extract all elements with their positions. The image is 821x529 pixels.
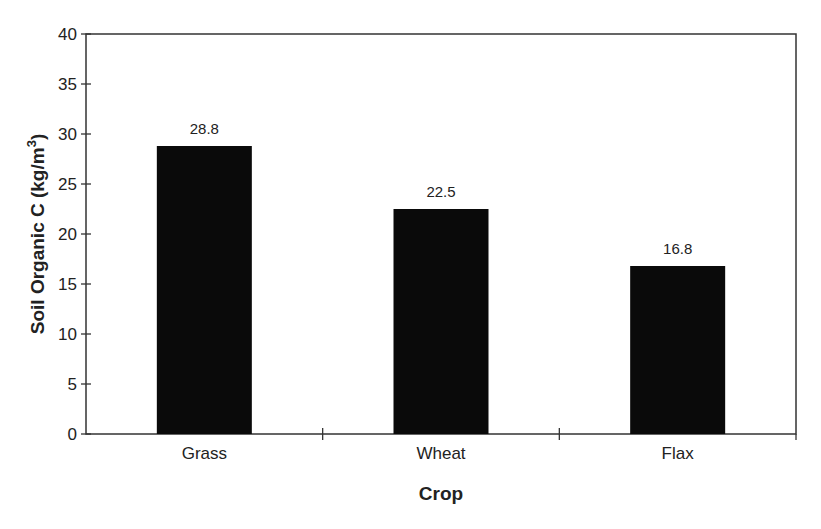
bar-value-label: 22.5 bbox=[426, 183, 455, 200]
bars: 28.822.516.8 bbox=[157, 120, 725, 434]
bar-value-label: 16.8 bbox=[663, 240, 692, 257]
x-category-label: Wheat bbox=[416, 444, 465, 463]
bar-chart: 0510152025303540 GrassWheatFlax 28.822.5… bbox=[0, 0, 821, 529]
y-axis-title: Soil Organic C (kg/m3) bbox=[24, 134, 48, 334]
y-tick-label: 40 bbox=[58, 25, 77, 44]
y-tick-label: 25 bbox=[58, 175, 77, 194]
x-category-label: Flax bbox=[662, 444, 695, 463]
bar-flax bbox=[630, 266, 725, 434]
y-tick-label: 20 bbox=[58, 225, 77, 244]
y-tick-label: 30 bbox=[58, 125, 77, 144]
bar-grass bbox=[157, 146, 252, 434]
y-tick-label: 35 bbox=[58, 75, 77, 94]
y-tick-label: 5 bbox=[68, 375, 77, 394]
y-tick-label: 0 bbox=[68, 425, 77, 444]
x-category-label: Grass bbox=[182, 444, 227, 463]
x-axis-title: Crop bbox=[419, 483, 463, 504]
bar-value-label: 28.8 bbox=[190, 120, 219, 137]
bar-wheat bbox=[394, 209, 489, 434]
y-tick-label: 15 bbox=[58, 275, 77, 294]
y-tick-label: 10 bbox=[58, 325, 77, 344]
